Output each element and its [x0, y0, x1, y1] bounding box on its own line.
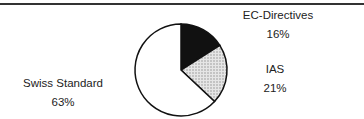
- label-ias: IAS 21%: [255, 62, 295, 95]
- label-ec-directives: EC-Directives 16%: [240, 8, 316, 41]
- label-swiss-standard: Swiss Standard 63%: [18, 76, 108, 109]
